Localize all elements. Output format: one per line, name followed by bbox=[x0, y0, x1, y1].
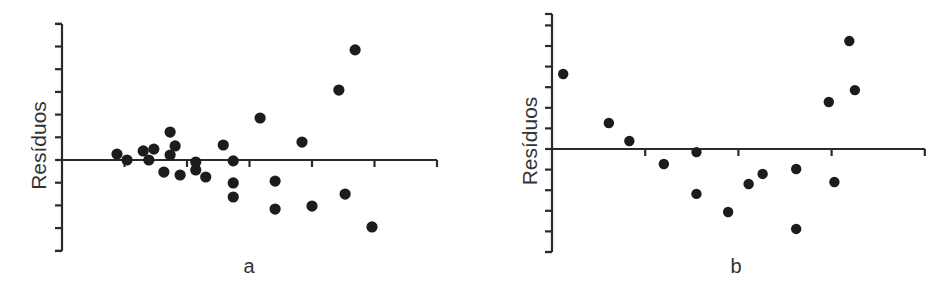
residual-plot-b: Resíduosb bbox=[518, 14, 925, 277]
data-point bbox=[850, 85, 860, 95]
data-point bbox=[255, 112, 266, 123]
data-point bbox=[158, 166, 169, 177]
data-point bbox=[333, 84, 344, 95]
data-point bbox=[366, 221, 377, 232]
data-point bbox=[340, 188, 351, 199]
residual-plots: Resíduosa Resíduosb bbox=[0, 0, 942, 289]
data-point bbox=[757, 169, 767, 179]
residual-plot-a: Resíduosa bbox=[27, 24, 437, 277]
x-axis-label: b bbox=[730, 255, 741, 277]
data-point bbox=[306, 200, 317, 211]
data-point bbox=[190, 164, 201, 175]
data-point bbox=[350, 44, 361, 55]
data-point bbox=[228, 155, 239, 166]
data-point bbox=[659, 159, 669, 169]
data-point bbox=[170, 140, 181, 151]
data-point bbox=[270, 203, 281, 214]
data-point bbox=[218, 139, 229, 150]
data-point bbox=[723, 207, 733, 217]
data-point bbox=[691, 189, 701, 199]
data-point bbox=[165, 126, 176, 137]
data-point bbox=[558, 69, 568, 79]
data-point bbox=[791, 164, 801, 174]
data-point bbox=[175, 169, 186, 180]
x-axis-label: a bbox=[243, 255, 255, 277]
data-point bbox=[143, 154, 154, 165]
data-point bbox=[743, 179, 753, 189]
data-point bbox=[270, 176, 281, 187]
data-point bbox=[604, 118, 614, 128]
data-point bbox=[791, 224, 801, 234]
data-point bbox=[228, 177, 239, 188]
data-point bbox=[296, 136, 307, 147]
y-axis-label: Resíduos bbox=[27, 101, 50, 190]
data-point bbox=[121, 154, 132, 165]
data-point bbox=[624, 136, 634, 146]
data-point bbox=[829, 177, 839, 187]
data-point bbox=[148, 144, 159, 155]
data-point bbox=[844, 36, 854, 46]
data-point bbox=[200, 171, 211, 182]
y-axis-label: Resíduos bbox=[518, 97, 541, 186]
data-point bbox=[691, 147, 701, 157]
data-point bbox=[111, 148, 122, 159]
data-point bbox=[824, 97, 834, 107]
data-point bbox=[228, 191, 239, 202]
